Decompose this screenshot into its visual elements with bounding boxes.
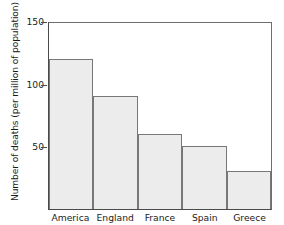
x-axis-label: America bbox=[48, 211, 93, 225]
y-tick-mark bbox=[41, 147, 47, 148]
bar bbox=[49, 59, 93, 209]
x-axis-label: England bbox=[93, 211, 138, 225]
y-tick-mark bbox=[41, 85, 47, 86]
x-axis-label: France bbox=[138, 211, 183, 225]
plot-area bbox=[48, 22, 272, 210]
y-axis-tick-group: 15010050 bbox=[12, 0, 44, 225]
bars-layer bbox=[49, 23, 271, 209]
x-axis-category-labels: AmericaEnglandFranceSpainGreece bbox=[48, 211, 272, 225]
bar bbox=[182, 146, 226, 209]
x-axis-label: Spain bbox=[182, 211, 227, 225]
x-axis-label: Greece bbox=[227, 211, 272, 225]
bar-chart: Number of deaths (per million of populat… bbox=[0, 0, 284, 225]
bar bbox=[93, 96, 137, 209]
y-tick-mark bbox=[41, 22, 47, 23]
bar bbox=[138, 134, 182, 209]
bar bbox=[227, 171, 271, 209]
